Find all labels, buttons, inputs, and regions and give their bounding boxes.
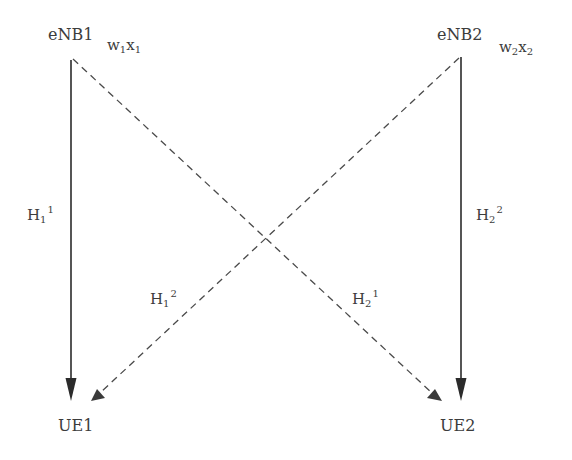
link-h21-dashed bbox=[73, 59, 442, 401]
link-h11-solid bbox=[66, 60, 77, 401]
channel-h22-label: H22 bbox=[476, 208, 503, 223]
enb2-weight-label: w2x2 bbox=[499, 40, 533, 55]
node-enb2-label: eNB2 bbox=[437, 27, 482, 43]
link-h12-dashed bbox=[91, 58, 459, 401]
arrowhead-icon bbox=[66, 378, 77, 401]
channel-h12-label: H12 bbox=[150, 292, 177, 307]
link-h22-solid bbox=[456, 57, 467, 401]
node-ue1-label: UE1 bbox=[58, 418, 93, 434]
channel-h21-label: H21 bbox=[352, 292, 379, 307]
node-enb1-label: eNB1 bbox=[48, 27, 93, 43]
channel-h11-label: H11 bbox=[27, 208, 54, 223]
interference-channel-diagram bbox=[0, 0, 572, 460]
node-ue2-label: UE2 bbox=[440, 418, 475, 434]
arrowhead-icon bbox=[91, 389, 105, 401]
arrowhead-icon bbox=[456, 378, 467, 401]
enb1-weight-label: w1x1 bbox=[107, 38, 141, 53]
